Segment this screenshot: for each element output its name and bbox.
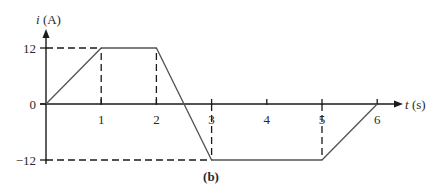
current-waveform-chart: 120−12123456 i (A) t (s) (b) [0, 0, 443, 188]
y-axis-label: i (A) [36, 12, 61, 27]
x-axis-label: t (s) [405, 97, 426, 112]
x-axis-arrow-icon [394, 101, 403, 108]
y-axis-arrow-icon [43, 29, 50, 38]
x-tick-label: 3 [208, 112, 215, 127]
y-tick-label: 12 [23, 41, 36, 56]
x-tick-label: 1 [98, 112, 105, 127]
y-tick-label: 0 [30, 97, 37, 112]
x-tick-label: 2 [153, 112, 160, 127]
y-tick-label: −12 [16, 153, 36, 168]
axes [40, 29, 403, 164]
x-tick-label: 6 [374, 112, 381, 127]
figure-caption: (b) [203, 169, 219, 184]
x-tick-label: 5 [319, 112, 326, 127]
x-tick-label: 4 [264, 112, 271, 127]
